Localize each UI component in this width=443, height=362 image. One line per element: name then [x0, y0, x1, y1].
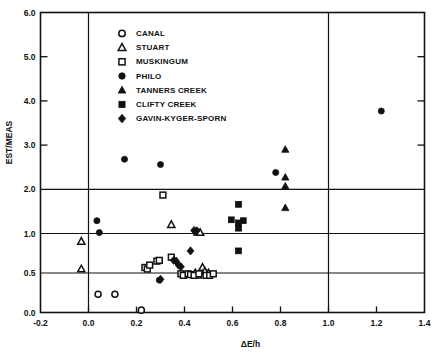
marker-square [119, 101, 125, 107]
marker-circle [157, 162, 163, 168]
marker-circle [378, 108, 384, 114]
marker-triangle [282, 146, 289, 153]
marker-diamond [118, 114, 125, 123]
y-axis-tick-label: 5.0 [24, 52, 36, 62]
marker-square [119, 59, 125, 65]
x-axis-tick-label: -0.2 [33, 318, 48, 328]
data-point [95, 291, 101, 297]
x-axis-tick-label: 0.2 [131, 318, 143, 328]
plot-frame [41, 13, 425, 313]
data-point [121, 156, 127, 162]
data-point [236, 225, 242, 231]
marker-triangle [282, 204, 289, 211]
legend-marker [119, 101, 125, 107]
legend-marker [119, 59, 125, 65]
marker-triangle [118, 44, 126, 51]
marker-triangle [168, 221, 175, 228]
marker-circle [112, 291, 118, 297]
legend-label: MUSKINGUM [136, 57, 188, 66]
data-point [282, 182, 289, 189]
y-axis-tick-label: 3.0 [24, 140, 36, 150]
marker-triangle [78, 238, 85, 245]
x-axis-tick-label: 1.2 [371, 318, 383, 328]
data-point [168, 221, 175, 228]
marker-square [210, 271, 216, 277]
legend-label: GAVIN-KYGER-SPORN [136, 114, 226, 123]
x-axis-tick-label: 1.0 [323, 318, 335, 328]
data-point [196, 271, 202, 277]
x-axis-tick-label: 0.8 [275, 318, 287, 328]
data-point [96, 230, 102, 236]
data-point [282, 174, 289, 181]
series-clifty-creek [228, 201, 246, 253]
y-axis-title: EST/MEAS [4, 120, 14, 164]
data-point [273, 169, 279, 175]
legend-marker [118, 86, 126, 93]
marker-circle [273, 169, 279, 175]
data-point [78, 265, 85, 272]
series-tanners-creek [282, 146, 289, 211]
data-point [236, 201, 242, 207]
marker-circle [119, 30, 125, 36]
marker-square [196, 271, 202, 277]
marker-triangle [78, 265, 85, 272]
data-point [147, 262, 153, 268]
marker-circle [138, 307, 144, 313]
legend-label: CLIFTY CREEK [136, 100, 197, 109]
marker-circle [121, 156, 127, 162]
data-point [94, 218, 100, 224]
legend-label: STUART [136, 43, 170, 52]
y-axis-tick-label: 1.0 [24, 229, 36, 239]
data-point [78, 238, 85, 245]
x-axis-tick-label: 0.6 [227, 318, 239, 328]
x-axis-title: ΔE/h [241, 339, 260, 349]
marker-square [236, 225, 242, 231]
x-axis-tick-label: 1.4 [419, 318, 431, 328]
data-point [156, 257, 162, 263]
legend: CANALSTUARTMUSKINGUMPHILOTANNERS CREEKCL… [118, 29, 226, 123]
series-philo [94, 108, 384, 283]
marker-triangle [282, 174, 289, 181]
legend-label: TANNERS CREEK [136, 86, 207, 95]
data-point [282, 146, 289, 153]
legend-marker [119, 30, 125, 36]
plot-canvas: -0.20.00.20.40.60.81.01.21.40.00.51.02.0… [0, 0, 443, 362]
scatter-plot-figure: -0.20.00.20.40.60.81.01.21.40.00.51.02.0… [0, 0, 443, 362]
marker-square [236, 201, 242, 207]
marker-circle [96, 230, 102, 236]
legend-label: PHILO [136, 72, 161, 81]
data-point [228, 217, 234, 223]
marker-square [240, 218, 246, 224]
data-point [160, 192, 166, 198]
y-axis-tick-label: 2.0 [24, 184, 36, 194]
legend-label: CANAL [136, 29, 165, 38]
marker-square [236, 248, 242, 254]
marker-square [160, 192, 166, 198]
marker-triangle [282, 182, 289, 189]
y-axis-tick-label: 4.0 [24, 96, 36, 106]
data-point [157, 162, 163, 168]
marker-triangle [118, 86, 126, 93]
marker-circle [119, 73, 125, 79]
marker-square [147, 262, 153, 268]
data-point [240, 218, 246, 224]
marker-circle [95, 291, 101, 297]
marker-square [156, 257, 162, 263]
y-axis-tick-label: 6.0 [24, 8, 36, 18]
x-axis-tick-label: 0.0 [83, 318, 95, 328]
data-point [378, 108, 384, 114]
data-point [187, 247, 194, 255]
data-point [236, 248, 242, 254]
legend-marker [119, 73, 125, 79]
data-point [282, 204, 289, 211]
marker-square [228, 217, 234, 223]
legend-marker [118, 114, 125, 123]
x-axis-tick-label: 0.4 [179, 318, 191, 328]
data-point [138, 307, 144, 313]
data-point [210, 271, 216, 277]
marker-diamond [187, 247, 194, 255]
data-point [112, 291, 118, 297]
y-axis-tick-label: 0.5 [24, 268, 36, 278]
y-axis-tick-label: 0.0 [24, 308, 36, 318]
legend-marker [118, 44, 126, 51]
